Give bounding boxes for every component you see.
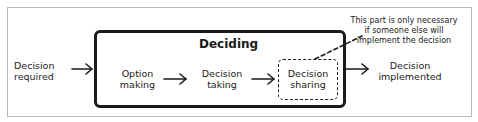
arrow-taking-to-sharing-icon [252, 74, 274, 84]
arrows-layer [0, 0, 478, 122]
annotation-leader-line-icon [315, 36, 362, 59]
arrow-option-to-taking-icon [164, 74, 186, 84]
arrow-input-icon [72, 64, 92, 74]
arrow-output-icon [346, 64, 368, 74]
